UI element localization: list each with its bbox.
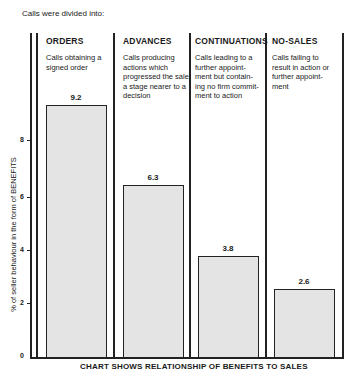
tick-label: 2 [20,299,24,306]
tick [27,140,32,141]
column-divider [265,33,267,359]
bar-orders [46,105,107,358]
tick [27,197,32,198]
tick-label: 4 [20,246,24,253]
bar-no-sales [274,289,335,358]
y-axis [30,33,32,359]
column-title-orders: ORDERS [46,36,84,46]
bar-label-advances: 6.3 [123,173,183,182]
tick [27,250,32,251]
tick-label: 6 [20,193,24,200]
tick [27,303,32,304]
column-title-no-sales: NO-SALES [272,36,318,46]
tick-label: 0 [20,352,24,359]
bar-label-no-sales: 2.6 [274,277,334,286]
y-axis-label: % of seller behaviour in the form of BEN… [9,150,18,320]
column-desc-no-sales: Calls failing to result in action or fur… [272,53,338,91]
column-desc-advances: Calls producing actions which progressed… [123,53,189,101]
tick-label: 8 [20,136,24,143]
column-divider [113,33,115,359]
intro-text: Calls were divided into: [22,9,104,18]
bar-advances [123,185,184,358]
column-title-advances: ADVANCES [123,36,172,46]
column-desc-continuations: Calls leading to a further appoint-ment … [195,53,261,101]
bar-continuations [198,256,259,358]
bar-label-orders: 9.2 [46,93,106,102]
column-desc-orders: Calls obtaining a signed order [46,53,112,72]
column-title-continuations: CONTINUATIONS [195,36,268,46]
column-divider [36,33,38,359]
bar-label-continuations: 3.8 [198,244,258,253]
x-axis-label: CHART SHOWS RELATIONSHIP OF BENEFITS TO … [80,362,308,371]
column-divider [342,33,344,359]
column-divider [189,33,191,359]
